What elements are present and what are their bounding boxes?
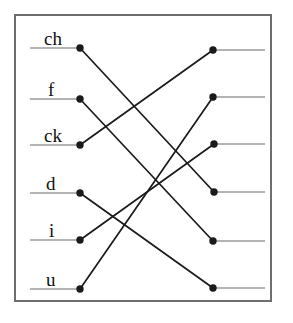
right-node-2	[209, 93, 216, 100]
node-label-u: u	[46, 270, 56, 289]
graph-nodes	[76, 44, 217, 292]
left-node-6	[76, 285, 83, 292]
diagram-canvas: chfckdiu	[0, 0, 293, 323]
right-node-6	[209, 284, 216, 291]
right-node-5	[209, 237, 216, 244]
edge-ck	[80, 50, 213, 145]
node-label-f: f	[48, 80, 54, 99]
left-node-3	[76, 141, 83, 148]
edge-d	[80, 193, 213, 288]
left-node-2	[76, 95, 83, 102]
left-node-5	[76, 236, 83, 243]
node-label-ch: ch	[44, 29, 62, 48]
matching-edges	[80, 48, 214, 289]
right-node-4	[210, 188, 217, 195]
node-label-d: d	[46, 174, 56, 193]
right-node-3	[210, 140, 217, 147]
node-label-i: i	[49, 221, 54, 240]
edge-u	[80, 97, 213, 289]
left-node-1	[76, 44, 83, 51]
node-label-ck: ck	[44, 126, 62, 145]
node-stub-lines	[30, 48, 265, 289]
right-node-1	[209, 46, 216, 53]
left-node-4	[76, 189, 83, 196]
